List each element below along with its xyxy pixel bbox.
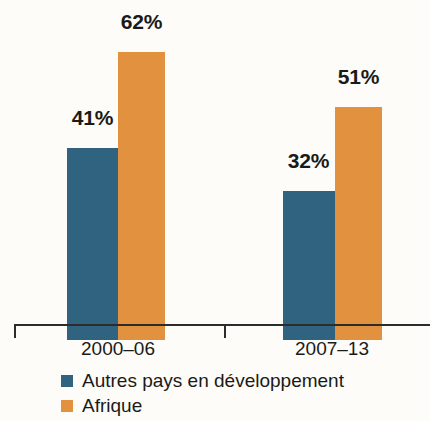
legend: Autres pays en développement Afrique xyxy=(61,368,421,418)
legend-item-autres-pays: Autres pays en développement xyxy=(61,368,421,393)
bar-label-2007-13-autres-pays: 32% xyxy=(273,150,344,171)
x-axis-tick-middle xyxy=(224,325,226,338)
x-axis-line xyxy=(14,324,430,326)
bar-label-2000-06-autres-pays: 41% xyxy=(57,107,128,128)
bar-2007-13-afrique xyxy=(335,107,382,340)
chart-figure: 41% 62% 32% 51% 2000–06 2007–13 Autres p… xyxy=(0,0,430,421)
plot-area: 41% 62% 32% 51% xyxy=(0,0,430,340)
x-axis-label-2007-13: 2007–13 xyxy=(272,339,392,360)
bar-2000-06-autres-pays xyxy=(67,148,118,340)
legend-item-afrique: Afrique xyxy=(61,393,421,418)
bar-label-2000-06-afrique: 62% xyxy=(106,11,177,32)
x-axis-tick-left xyxy=(14,325,16,338)
legend-swatch-blue-icon xyxy=(61,375,73,387)
legend-label-autres-pays: Autres pays en développement xyxy=(82,371,344,390)
bar-2007-13-autres-pays xyxy=(283,191,335,340)
bar-2000-06-afrique xyxy=(118,52,165,340)
bar-label-2007-13-afrique: 51% xyxy=(323,66,394,87)
legend-label-afrique: Afrique xyxy=(82,396,142,415)
legend-swatch-orange-icon xyxy=(61,400,73,412)
x-axis-label-2000-06: 2000–06 xyxy=(58,339,178,360)
